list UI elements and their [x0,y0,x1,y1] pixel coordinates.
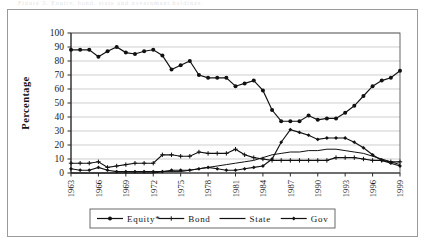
data-point-marker [234,84,238,88]
y-tick-label: 90 [55,42,65,52]
data-point-marker [252,79,256,83]
x-axis-tick-labels: 1963196619691972197519781981198419871990… [66,173,405,197]
x-tick-label: 1969 [121,180,131,197]
data-point-marker [343,136,347,140]
x-tick-label: 1981 [231,180,241,197]
y-axis-title: Percentage [20,76,31,129]
figure-container: Figure 3. Equity, bond, state and govern… [0,0,426,243]
data-point-marker [325,116,329,120]
data-point-marker [69,167,73,171]
legend-label: Bond [188,214,210,224]
data-point-marker [115,45,119,49]
y-tick-label: 0 [59,168,64,178]
data-point-marker [78,48,82,52]
series-bond [69,147,402,170]
x-tick-label: 1963 [66,180,76,197]
data-point-marker [78,168,82,172]
y-tick-label: 100 [50,28,65,38]
x-tick-label: 1993 [341,180,351,197]
x-tick-label: 1975 [176,180,186,197]
data-series-group [69,45,402,174]
data-point-marker [279,119,283,123]
series-line [71,47,400,121]
legend-label: Equity* [127,214,160,224]
y-tick-label: 40 [55,112,65,122]
series-equity [69,45,402,123]
data-point-marker [307,133,311,137]
y-tick-label: 20 [55,140,65,150]
data-point-marker [160,53,164,57]
data-point-marker [188,168,192,172]
x-tick-label: 1972 [149,180,159,197]
data-point-marker [252,166,256,170]
data-point-marker [234,168,238,172]
data-point-marker [206,166,210,170]
data-point-marker [243,167,247,171]
y-tick-label: 50 [55,98,65,108]
data-point-marker [133,52,137,56]
y-tick-label: 10 [55,154,65,164]
data-point-marker [215,76,219,80]
x-tick-label: 1987 [286,179,296,197]
caption-artifact-text: Figure 3. Equity, bond, state and govern… [18,0,218,5]
data-point-marker [170,67,174,71]
data-point-marker [106,49,110,53]
data-point-marker [371,84,375,88]
data-point-marker [261,88,265,92]
data-point-marker [325,136,329,140]
data-point-marker [380,79,384,83]
data-point-marker [197,73,201,77]
data-point-marker [97,166,101,170]
data-point-marker [96,55,100,59]
data-point-marker [389,76,393,80]
line-chart: 0102030405060708090100 19631966196919721… [7,9,418,237]
data-point-marker [179,63,183,67]
data-point-marker [151,48,155,52]
y-tick-label: 70 [55,70,65,80]
data-point-marker [343,111,347,115]
data-point-marker [142,49,146,53]
chart-legend: Equity*BondStateGov [90,209,335,228]
data-point-marker [215,167,219,171]
legend-label: State [250,214,272,224]
x-tick-label: 1999 [395,180,405,197]
data-point-marker [87,168,91,172]
data-point-marker [352,104,356,108]
data-point-marker [316,118,320,122]
data-point-marker [398,69,402,73]
data-point-marker [87,48,91,52]
data-point-marker [361,94,365,98]
x-tick-label: 1966 [94,179,104,197]
x-tick-label: 1990 [313,180,323,197]
data-point-marker [270,108,274,112]
legend-marker [108,217,112,221]
y-tick-label: 80 [55,56,65,66]
data-point-marker [334,116,338,120]
y-axis-label-text: Percentage [20,76,31,129]
data-point-marker [334,136,338,140]
data-point-marker [307,114,311,118]
data-point-marker [316,138,320,142]
data-point-marker [69,48,73,52]
data-point-marker [224,76,228,80]
data-point-marker [197,167,201,171]
legend-label: Gov [311,214,329,224]
y-tick-label: 60 [55,84,65,94]
data-point-marker [206,76,210,80]
y-tick-label: 30 [55,126,65,136]
data-point-marker [188,59,192,63]
data-point-marker [243,81,247,85]
x-tick-label: 1978 [203,180,213,197]
data-point-marker [288,119,292,123]
data-point-marker [224,168,228,172]
y-axis-tick-labels: 0102030405060708090100 [50,28,71,178]
data-point-marker [106,168,110,172]
data-point-marker [124,51,128,55]
x-tick-label: 1984 [258,179,268,197]
data-point-marker [297,119,301,123]
x-tick-label: 1996 [368,179,378,197]
